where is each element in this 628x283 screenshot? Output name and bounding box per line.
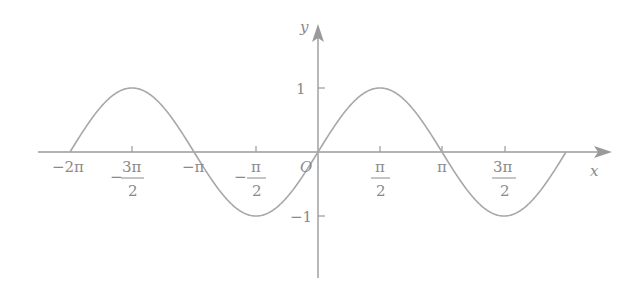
sine-graph: y x O 1 −1 −2π − 3π 2 −π − π 2 π 2 π 3π … — [0, 0, 628, 283]
x-tick-label-3pi-over-2: 3π 2 — [492, 158, 516, 200]
svg-text:2: 2 — [500, 182, 510, 200]
svg-text:π: π — [251, 158, 261, 176]
svg-text:−: − — [234, 168, 247, 186]
x-tick-label-neg-pi: −π — [182, 158, 205, 176]
x-axis-label: x — [590, 162, 599, 180]
x-tick-label-pi-over-2: π 2 — [371, 158, 390, 200]
svg-text:2: 2 — [128, 182, 138, 200]
svg-text:2: 2 — [376, 182, 386, 200]
svg-text:π: π — [375, 158, 385, 176]
y-tick-label-neg1: −1 — [290, 208, 312, 226]
x-tick-label-neg-3pi-over-2: − 3π 2 — [110, 158, 144, 200]
y-axis-label: y — [299, 18, 309, 36]
svg-text:−: − — [110, 168, 123, 186]
svg-text:3π: 3π — [122, 158, 142, 176]
x-tick-label-pi: π — [437, 158, 447, 176]
svg-text:2: 2 — [252, 182, 262, 200]
origin-label: O — [300, 158, 312, 176]
x-tick-label-neg-2pi: −2π — [52, 158, 84, 176]
svg-text:3π: 3π — [493, 158, 513, 176]
y-tick-label-1: 1 — [296, 80, 306, 98]
x-tick-label-neg-pi-over-2: − π 2 — [234, 158, 266, 200]
